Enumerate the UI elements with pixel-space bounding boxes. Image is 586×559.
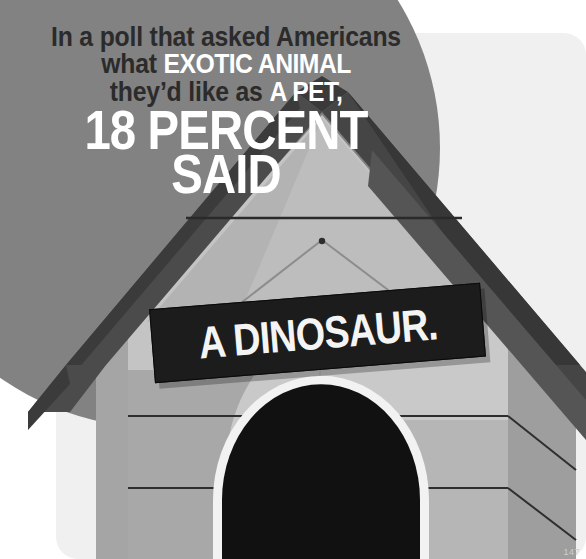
sign-label: A DINOSAUR. [196, 301, 438, 365]
page-number: 147 [563, 547, 580, 557]
sign-hanger-hook [319, 238, 325, 244]
dog-house-illustration [0, 0, 586, 559]
poster-canvas: In a poll that asked Americans what EXOT… [0, 0, 586, 559]
